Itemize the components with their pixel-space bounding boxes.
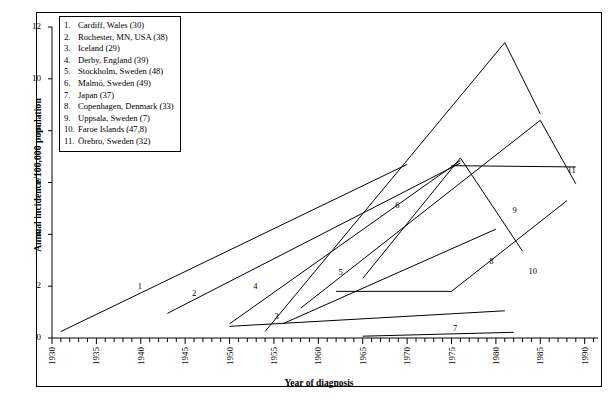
- series-line-5: [301, 120, 576, 308]
- legend-item-number: 4.: [64, 55, 78, 67]
- series-line-2: [167, 163, 460, 313]
- legend-item-label: Copenhagen, Denmark (33): [78, 101, 174, 113]
- legend-item-number: 9.: [64, 113, 78, 125]
- y-axis-tick-label: 12: [21, 21, 41, 31]
- legend-item-number: 8.: [64, 101, 78, 113]
- series-label-4: 4: [253, 281, 257, 291]
- x-axis-tick-label: 1985: [535, 347, 545, 365]
- legend-item-number: 7.: [64, 90, 78, 102]
- x-axis-tick-label: 1935: [91, 347, 101, 365]
- x-axis-tick-label: 1950: [225, 347, 235, 365]
- legend-item: 5.Stockholm, Sweden (48): [64, 66, 174, 78]
- legend-item: 1.Cardiff, Wales (30): [64, 20, 174, 32]
- chart-legend: 1.Cardiff, Wales (30)2.Rochester, MN, US…: [59, 16, 181, 152]
- legend-item: 11.Örebro, Sweden (32): [64, 136, 174, 148]
- y-axis-tick-label: 0: [21, 332, 41, 342]
- y-axis-tick-label: 10: [21, 73, 41, 83]
- y-axis-tick-label: 6: [21, 177, 41, 187]
- legend-item-number: 10.: [64, 124, 78, 136]
- legend-item-number: 5.: [64, 66, 78, 78]
- x-axis-tick-label: 1930: [47, 347, 57, 365]
- legend-item: 10.Faroe Islands (47,8): [64, 124, 174, 136]
- figure-panel: Annual incidence/100,000 population Year…: [0, 0, 616, 402]
- x-axis-tick-label: 1990: [580, 347, 590, 365]
- series-label-6: 6: [395, 200, 399, 210]
- legend-item-label: Rochester, MN, USA (38): [78, 32, 168, 44]
- x-axis-tick-label: 1965: [358, 347, 368, 365]
- legend-item-label: Örebro, Sweden (32): [78, 136, 150, 148]
- series-label-2: 2: [192, 288, 196, 298]
- series-line-4: [230, 160, 461, 323]
- x-axis-tick-label: 1975: [447, 347, 457, 365]
- series-label-7: 7: [453, 323, 457, 333]
- legend-item: 2.Rochester, MN, USA (38): [64, 32, 174, 44]
- x-axis-tick-label: 1980: [491, 347, 501, 365]
- legend-item-label: Iceland (29): [78, 43, 120, 55]
- y-axis-title: Annual incidence/100,000 population: [33, 60, 43, 290]
- legend-item-label: Derby, England (39): [78, 55, 148, 67]
- x-axis-tick-label: 1970: [402, 347, 412, 365]
- series-line-1: [61, 164, 407, 331]
- legend-item-number: 6.: [64, 78, 78, 90]
- series-line-10: [336, 201, 567, 292]
- series-label-10: 10: [528, 266, 537, 276]
- x-axis-title: Year of diagnosis: [36, 378, 602, 388]
- series-label-3: 3: [275, 311, 279, 321]
- legend-item-number: 2.: [64, 32, 78, 44]
- legend-item: 9.Uppsala, Sweden (7): [64, 113, 174, 125]
- legend-item: 7.Japan (37): [64, 90, 174, 102]
- legend-item: 8.Copenhagen, Denmark (33): [64, 101, 174, 113]
- series-label-1: 1: [138, 281, 142, 291]
- series-line-9: [363, 158, 523, 279]
- y-axis-tick-label: 4: [21, 228, 41, 238]
- legend-item-number: 3.: [64, 43, 78, 55]
- series-label-11: 11: [567, 165, 575, 175]
- legend-item-label: Stockholm, Sweden (48): [78, 66, 163, 78]
- series-label-9: 9: [512, 205, 516, 215]
- legend-item-label: Faroe Islands (47,8): [78, 124, 147, 136]
- legend-item: 6.Malmö, Sweden (49): [64, 78, 174, 90]
- x-axis-tick-label: 1945: [180, 347, 190, 365]
- series-label-8: 8: [489, 256, 493, 266]
- legend-item-label: Cardiff, Wales (30): [78, 20, 144, 32]
- series-line-11: [452, 166, 576, 167]
- series-line-8: [283, 229, 496, 324]
- legend-item-label: Malmö, Sweden (49): [78, 78, 151, 90]
- y-axis-tick-label: 2: [21, 280, 41, 290]
- legend-item-label: Uppsala, Sweden (7): [78, 113, 150, 125]
- series-line-6: [265, 43, 540, 332]
- x-axis-tick-label: 1955: [269, 347, 279, 365]
- x-axis-tick-label: 1960: [313, 347, 323, 365]
- legend-item-number: 1.: [64, 20, 78, 32]
- legend-item: 4.Derby, England (39): [64, 55, 174, 67]
- y-axis-tick-label: 8: [21, 125, 41, 135]
- legend-item-label: Japan (37): [78, 90, 114, 102]
- legend-item-number: 11.: [64, 136, 78, 148]
- x-axis-tick-label: 1940: [136, 347, 146, 365]
- series-label-5: 5: [338, 267, 342, 277]
- series-line-7: [363, 332, 514, 336]
- legend-item: 3.Iceland (29): [64, 43, 174, 55]
